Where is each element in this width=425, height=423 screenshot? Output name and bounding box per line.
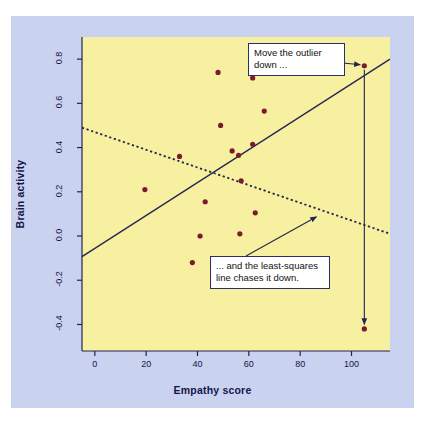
callout-move-outlier-line-2: down ... (254, 59, 339, 71)
data-point (190, 260, 195, 265)
y-tick-label--0.2: -0.2 (54, 264, 64, 294)
x-tick-label-40: 40 (183, 359, 213, 369)
y-tick-label-0.8: 0.8 (54, 43, 64, 73)
data-point (236, 153, 241, 158)
callout-line-chases: ... and the least-squares line chases it… (210, 256, 330, 289)
data-point (262, 108, 267, 113)
x-tick-label-20: 20 (131, 359, 161, 369)
y-axis-ticks (77, 59, 82, 324)
data-point (237, 231, 242, 236)
callout-move-outlier-line-1: Move the outlier (254, 47, 339, 59)
x-tick-label-0: 0 (80, 359, 110, 369)
x-axis-ticks (95, 351, 352, 356)
data-point (239, 178, 244, 183)
data-point (197, 233, 202, 238)
data-point (215, 70, 220, 75)
callout-move-outlier: Move the outlier down ... (248, 43, 345, 76)
data-point (250, 75, 255, 80)
callout-line-chases-line-2: line chases it down. (216, 272, 324, 284)
data-point (230, 148, 235, 153)
data-point (362, 63, 367, 68)
data-point (142, 187, 147, 192)
data-point (250, 142, 255, 147)
y-tick-label-0.2: 0.2 (54, 176, 64, 206)
figure-container: Empathy score Brain activity 02040608010… (0, 0, 425, 423)
data-point (177, 154, 182, 159)
x-tick-label-80: 80 (285, 359, 315, 369)
plot-area-background (82, 37, 390, 351)
callout-line-chases-line-1: ... and the least-squares (216, 260, 324, 272)
data-point (218, 123, 223, 128)
y-axis-title: Brain activity (14, 134, 26, 254)
y-tick-label--0.4: -0.4 (54, 308, 64, 338)
x-axis-title: Empathy score (0, 384, 425, 396)
y-tick-label-0.4: 0.4 (54, 132, 64, 162)
data-point (203, 199, 208, 204)
y-tick-label-0.0: 0.0 (54, 220, 64, 250)
y-tick-label-0.6: 0.6 (54, 87, 64, 117)
x-tick-label-100: 100 (337, 359, 367, 369)
data-point (253, 210, 258, 215)
data-point (362, 326, 367, 331)
x-tick-label-60: 60 (234, 359, 264, 369)
